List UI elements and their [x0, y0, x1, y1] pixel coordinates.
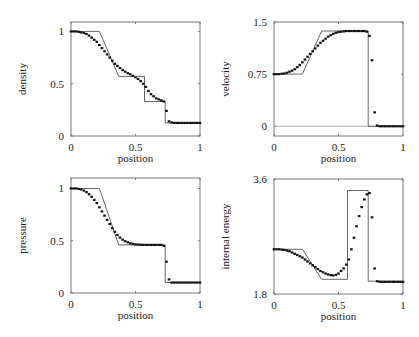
data-point: [194, 122, 197, 124]
data-point: [345, 264, 348, 266]
data-point: [96, 41, 99, 43]
data-point: [191, 122, 194, 124]
x-axis-label: position: [321, 152, 357, 164]
data-point: [157, 98, 160, 100]
data-point: [391, 281, 394, 283]
x-tick-label: 0: [68, 141, 74, 153]
data-point: [278, 248, 281, 250]
data-point: [399, 281, 402, 283]
data-point: [142, 83, 145, 85]
data-point: [273, 248, 276, 250]
data-point: [384, 125, 387, 127]
data-point: [319, 270, 322, 272]
data-point: [124, 240, 127, 242]
x-tick-label: 0: [271, 299, 277, 311]
y-tick-label: 0: [59, 130, 65, 142]
data-point: [101, 47, 104, 49]
data-point: [317, 45, 320, 47]
data-point: [88, 193, 91, 195]
data-point: [137, 243, 140, 245]
data-point: [371, 216, 374, 218]
data-point: [150, 93, 153, 95]
y-tick-label: 1: [59, 25, 65, 37]
data-point: [386, 281, 389, 283]
data-point: [278, 73, 281, 75]
data-point: [371, 59, 374, 61]
data-point: [386, 125, 389, 127]
data-point: [353, 237, 356, 239]
data-point: [314, 266, 317, 268]
plot-velocity: 00.51position00.751.5velocity: [219, 16, 406, 164]
data-point: [85, 191, 88, 193]
data-point: [306, 56, 309, 58]
data-point: [90, 196, 93, 198]
data-point: [170, 121, 173, 123]
data-point: [191, 281, 194, 283]
data-point: [304, 258, 307, 260]
data-point: [199, 281, 202, 283]
x-axis-label: position: [118, 152, 154, 164]
data-point: [337, 31, 340, 33]
y-axis-label: pressure: [16, 217, 28, 254]
data-point: [188, 281, 191, 283]
data-point: [378, 125, 381, 127]
data-point: [96, 202, 99, 204]
data-point: [199, 122, 202, 124]
y-axis-label: velocity: [219, 61, 231, 97]
data-point: [368, 192, 371, 194]
plot-pressure: 00.51position00.51pressure: [16, 178, 203, 321]
data-point: [93, 39, 96, 41]
data-point: [196, 281, 199, 283]
data-point: [116, 234, 119, 236]
x-tick-label: 0: [271, 141, 277, 153]
data-point: [126, 72, 129, 74]
data-point: [291, 251, 294, 253]
data-point: [186, 281, 189, 283]
axes-frame: [274, 179, 403, 294]
data-point: [378, 281, 381, 283]
data-point: [75, 30, 78, 32]
data-point: [145, 244, 148, 246]
data-point: [345, 30, 348, 32]
data-point: [275, 248, 278, 250]
data-point: [152, 244, 155, 246]
data-point: [283, 72, 286, 74]
data-point: [119, 67, 122, 69]
data-point: [353, 30, 356, 32]
exact-solution-line: [71, 189, 200, 283]
data-point: [293, 68, 296, 70]
data-point: [340, 270, 343, 272]
data-point: [286, 249, 289, 251]
data-point: [340, 31, 343, 33]
x-tick-label: 0: [68, 298, 74, 310]
y-tick-label: 1.5: [253, 16, 267, 28]
data-point: [83, 189, 86, 191]
data-point: [373, 111, 376, 113]
data-point: [288, 71, 291, 73]
data-point: [77, 31, 80, 33]
data-point: [98, 206, 101, 208]
data-point: [299, 64, 302, 66]
data-point: [368, 35, 371, 37]
data-point: [165, 261, 168, 263]
data-point: [327, 273, 330, 275]
x-axis-label: position: [321, 310, 357, 322]
data-point: [75, 187, 78, 189]
data-point: [402, 281, 405, 283]
data-point: [139, 244, 142, 246]
data-point: [114, 63, 117, 65]
data-point: [155, 97, 158, 99]
data-point: [194, 281, 197, 283]
data-point: [160, 99, 163, 101]
y-axis-label: internal energy: [219, 203, 231, 270]
data-point: [293, 253, 296, 255]
data-point: [335, 32, 338, 34]
data-point: [397, 281, 400, 283]
data-point: [322, 271, 325, 273]
data-point: [183, 122, 186, 124]
x-axis-label: position: [118, 309, 154, 321]
x-tick-label: 1: [197, 298, 203, 310]
data-point: [309, 262, 312, 264]
data-point: [350, 30, 353, 32]
data-point: [163, 100, 166, 102]
